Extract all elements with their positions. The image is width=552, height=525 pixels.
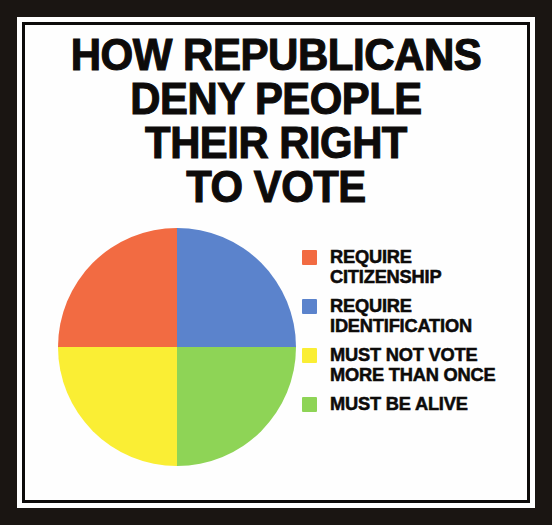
title-line-3: THEIR RIGHT [38, 121, 515, 165]
title-line-4: TO VOTE [38, 165, 515, 209]
legend-swatch-icon [302, 250, 317, 265]
title-line-1: HOW REPUBLICANS [36, 33, 515, 77]
pie-slices [58, 228, 296, 466]
pie-slice-require-identification [177, 228, 296, 347]
legend-item-label: REQUIRE CITIZENSHIP [330, 247, 441, 287]
pie-slice-must-not-vote-more-than-once [58, 347, 177, 466]
poster: HOW REPUBLICANS DENY PEOPLE THEIR RIGHT … [0, 0, 552, 525]
legend-item-must-not-vote-more-than-once: MUST NOT VOTE MORE THAN ONCE [302, 345, 527, 385]
legend-item-label: REQUIRE IDENTIFICATION [330, 296, 472, 336]
legend-swatch-icon [302, 397, 317, 412]
legend-swatch-icon [302, 299, 317, 314]
pie-chart-svg [58, 228, 296, 466]
legend-item-label: MUST BE ALIVE [330, 394, 468, 414]
legend-label-line: REQUIRE [330, 296, 472, 316]
pie-chart [58, 228, 296, 466]
legend-label-line: MORE THAN ONCE [330, 365, 496, 385]
pie-slice-require-citizenship [58, 228, 177, 347]
pie-slice-must-be-alive [177, 347, 296, 466]
legend-item-require-citizenship: REQUIRE CITIZENSHIP [302, 247, 527, 287]
chart-legend: REQUIRE CITIZENSHIP REQUIRE IDENTIFICATI… [302, 247, 527, 414]
legend-label-line: MUST BE ALIVE [330, 394, 468, 414]
legend-label-line: MUST NOT VOTE [330, 345, 496, 365]
legend-label-line: REQUIRE [330, 247, 441, 267]
page-title: HOW REPUBLICANS DENY PEOPLE THEIR RIGHT … [25, 33, 527, 209]
legend-item-must-be-alive: MUST BE ALIVE [302, 394, 527, 414]
poster-content: HOW REPUBLICANS DENY PEOPLE THEIR RIGHT … [25, 25, 527, 500]
legend-label-line: CITIZENSHIP [330, 267, 441, 287]
legend-swatch-icon [302, 348, 317, 363]
legend-item-label: MUST NOT VOTE MORE THAN ONCE [330, 345, 496, 385]
legend-label-line: IDENTIFICATION [330, 316, 472, 336]
title-line-2: DENY PEOPLE [38, 77, 515, 121]
legend-item-require-identification: REQUIRE IDENTIFICATION [302, 296, 527, 336]
